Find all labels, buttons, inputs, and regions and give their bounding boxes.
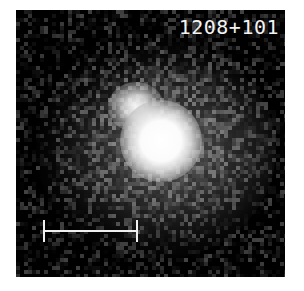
cut-off-caption <box>0 283 304 291</box>
object-label: 1208+101 <box>179 16 279 38</box>
astronomical-image: 1208+101 <box>16 10 285 277</box>
scale-bar <box>43 220 138 242</box>
scale-bar-right-tick <box>136 220 138 242</box>
scale-bar-line <box>43 230 138 232</box>
figure-page: 1208+101 <box>0 0 304 291</box>
